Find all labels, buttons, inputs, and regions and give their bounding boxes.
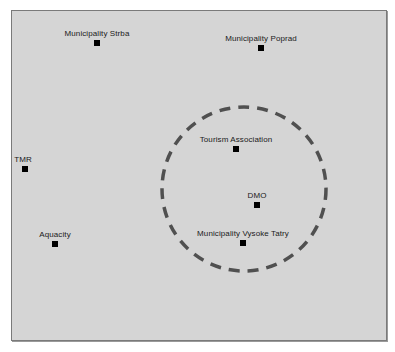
node-label: TMR xyxy=(14,155,32,164)
square-marker-icon xyxy=(52,241,58,247)
node-label: Municipality Poprad xyxy=(225,34,297,43)
square-marker-icon xyxy=(240,240,246,246)
node-label: Municipality Vysoke Tatry xyxy=(197,229,289,238)
node-label: DMO xyxy=(248,191,267,200)
diagram-panel xyxy=(11,10,387,341)
square-marker-icon xyxy=(94,40,100,46)
node-label: Aquacity xyxy=(39,230,70,239)
square-marker-icon xyxy=(233,146,239,152)
square-marker-icon xyxy=(254,202,260,208)
square-marker-icon xyxy=(22,166,28,172)
square-marker-icon xyxy=(258,45,264,51)
node-label: Municipality Strba xyxy=(65,29,130,38)
node-label: Tourism Association xyxy=(200,135,273,144)
